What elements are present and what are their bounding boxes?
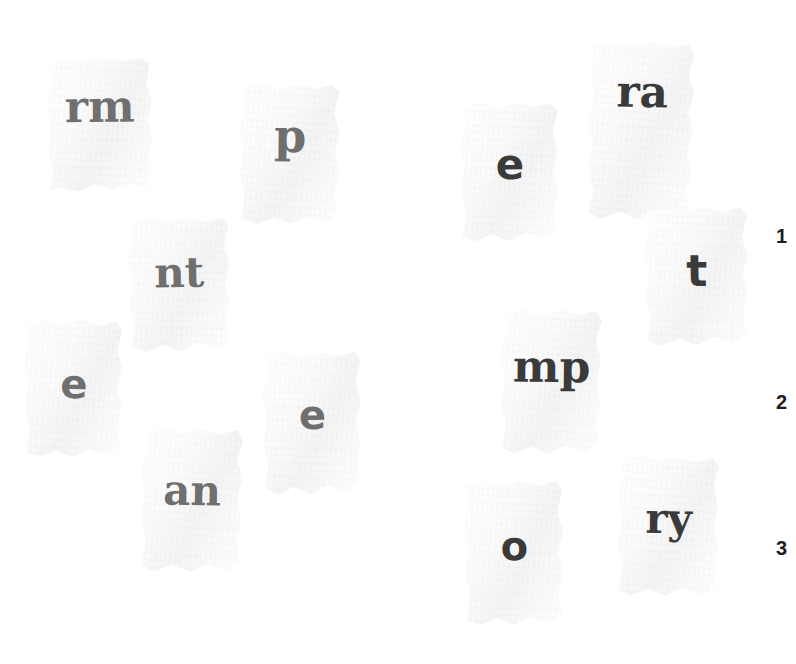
fragment-text: e [262,395,363,436]
paper-scrap[interactable]: nt [127,215,233,355]
paper-scrap[interactable]: o [463,479,566,628]
row-number-1: 1 [776,226,787,246]
fragment-text: o [464,525,565,566]
fragment-text: p [239,112,342,159]
fragment-text: t [644,248,751,293]
paper-scrap[interactable]: e [24,320,125,461]
paper-scrap[interactable]: mp [499,308,604,457]
fragment-text: nt [127,251,231,295]
row-number-3: 3 [776,538,787,558]
fragment-text: ry [617,497,721,541]
fragment-text: an [140,469,245,513]
paper-fragments-canvas: rmpnteeaneratmpory 123 [0,0,796,664]
row-number-2: 2 [776,392,787,412]
fragment-text: rm [47,84,153,129]
paper-scrap[interactable]: p [238,82,342,226]
paper-scrap[interactable]: rm [46,56,153,194]
fragment-text: e [24,364,124,405]
fragment-text: e [460,144,560,187]
paper-scrap[interactable]: e [460,102,561,245]
fragment-text: mp [500,344,603,389]
paper-scrap[interactable]: ra [586,41,697,224]
fragment-text: ra [588,69,696,115]
paper-scrap[interactable]: e [261,351,363,498]
paper-scrap[interactable]: t [643,206,751,348]
paper-scrap[interactable]: an [139,427,246,576]
paper-scrap[interactable]: ry [616,455,721,600]
